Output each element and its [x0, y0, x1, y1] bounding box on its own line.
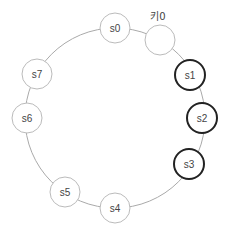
server-label: s0	[110, 23, 121, 34]
server-node-s5: s5	[50, 177, 80, 207]
server-node-s2: s2	[187, 103, 217, 133]
server-label: s7	[32, 69, 43, 80]
server-nodes: s0s1s2s3s4s5s6s7	[12, 13, 217, 223]
server-node-s3: s3	[174, 149, 204, 179]
server-node-s0: s0	[100, 13, 130, 43]
server-node-s6: s6	[12, 103, 42, 133]
key-node: 키0	[145, 11, 175, 55]
server-node-s4: s4	[100, 193, 130, 223]
server-label: s2	[197, 113, 208, 124]
key-label: 키0	[150, 11, 165, 22]
server-label: s1	[185, 70, 196, 81]
server-node-s7: s7	[22, 59, 52, 89]
key-circle	[145, 25, 175, 55]
hash-ring-diagram: s0s1s2s3s4s5s6s7 키0	[0, 0, 226, 231]
server-node-s1: s1	[175, 60, 205, 90]
server-label: s6	[22, 113, 33, 124]
server-label: s5	[60, 187, 71, 198]
server-label: s4	[110, 203, 121, 214]
server-label: s3	[184, 159, 195, 170]
hash-ring	[25, 28, 205, 208]
